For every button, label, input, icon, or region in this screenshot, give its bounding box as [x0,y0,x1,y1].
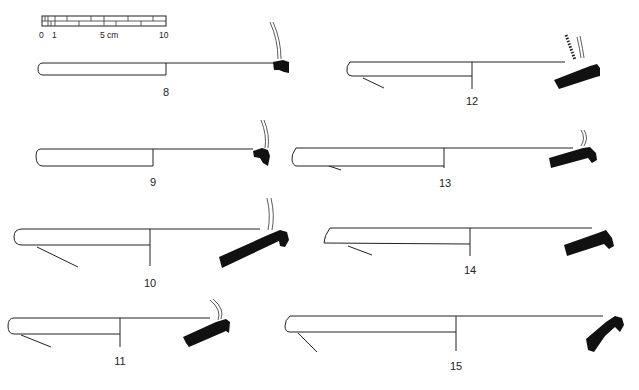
profile-label-14: 14 [464,264,476,276]
pottery-profile-plate: 0 1 5 cm 10 8 9 10 11 12 13 14 15 [0,0,639,390]
profile-11 [8,299,230,347]
profile-label-8: 8 [163,86,169,98]
profile-label-15: 15 [450,360,462,372]
profile-label-13: 13 [439,177,451,189]
scale-label-10: 10 [159,30,168,40]
profile-label-9: 9 [150,176,156,188]
scale-label-1: 1 [52,30,57,40]
profile-label-11: 11 [114,355,125,367]
profile-9 [36,120,270,166]
profile-15 [285,316,624,352]
scale-label-5cm: 5 cm [100,30,118,40]
profile-label-12: 12 [466,95,478,107]
profile-13 [292,130,597,170]
profile-label-10: 10 [144,277,156,289]
profile-14 [324,228,614,256]
scale-label-0: 0 [39,30,44,40]
profile-12 [347,35,600,89]
scale-bar [42,16,166,26]
profile-10 [14,198,289,268]
